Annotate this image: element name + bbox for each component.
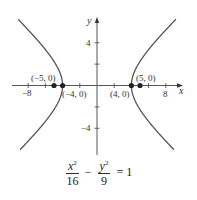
exponent: 2	[105, 159, 109, 167]
x-axis	[12, 83, 183, 87]
minus-operator: −	[85, 165, 92, 180]
denominator: 16	[66, 174, 78, 187]
y-axis-label: y	[86, 15, 92, 26]
equation-caption: x2 16 − y2 9 = 1	[64, 157, 136, 187]
point-label-focus-left: (−5, 0)	[31, 73, 56, 83]
y-axis	[95, 17, 99, 155]
focus-point	[51, 83, 56, 88]
fraction-x-squared-over-16: x2 16	[66, 157, 79, 187]
denominator: 9	[101, 174, 107, 187]
x-axis-label: x	[178, 85, 184, 96]
fraction-y-squared-over-9: y2 9	[98, 157, 111, 187]
hyperbola-plot: x y −8 8 4 −4 (−5, 0) (−4, 0) (4, 0) (5,…	[0, 0, 197, 155]
vertex-point	[60, 83, 65, 88]
x-tick-label-neg8: −8	[22, 88, 32, 98]
x-tick-label-8: 8	[163, 89, 168, 99]
y-tick-label-4: 4	[86, 38, 91, 48]
equals-one: = 1	[116, 165, 132, 180]
point-label-vertex-left: (−4, 0)	[62, 89, 87, 99]
y-axis-arrow-icon	[95, 17, 99, 23]
focus-point	[137, 83, 142, 88]
y-tick-label-neg4: −4	[81, 123, 91, 133]
point-label-vertex-right: (4, 0)	[110, 89, 130, 99]
point-label-focus-right: (5, 0)	[136, 73, 156, 83]
vertex-point	[129, 83, 134, 88]
exponent: 2	[73, 159, 77, 167]
